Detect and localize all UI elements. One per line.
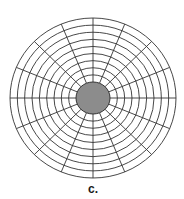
polar-grid-diagram [0,0,184,199]
spoke-line [105,109,152,154]
spoke-line [34,41,81,86]
spoke-line [34,109,81,154]
figure-label: c. [0,182,184,196]
spoke-line [105,41,152,86]
center-ellipse [76,82,110,114]
